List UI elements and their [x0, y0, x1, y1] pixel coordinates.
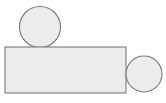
shapes-diagram: [0, 0, 166, 103]
right-circle-shape[interactable]: [126, 56, 162, 92]
diagram-canvas: [0, 0, 166, 103]
main-rectangle-shape[interactable]: [5, 47, 126, 93]
top-circle-shape[interactable]: [20, 7, 61, 48]
